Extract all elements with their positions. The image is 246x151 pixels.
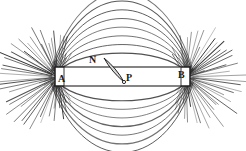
upper-field-line-arcs	[51, 0, 193, 71]
field-lines-svg	[0, 0, 246, 151]
field-line-arc	[56, 27, 189, 71]
needle-pivot-label: P	[126, 73, 132, 83]
pole-label-a: A	[58, 74, 65, 84]
field-line-arc	[55, 83, 189, 127]
needle-north-label: N	[89, 55, 96, 65]
lower-field-line-arcs	[51, 83, 193, 151]
pole-label-b: B	[178, 70, 185, 80]
field-line-arc	[51, 83, 193, 151]
magnetic-field-figure: A B N P	[0, 0, 246, 151]
